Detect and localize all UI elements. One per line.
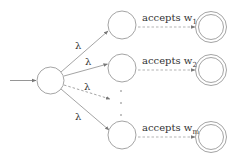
lambda-label-dashed: λ <box>84 81 91 92</box>
accept-state-m-inner <box>199 125 224 150</box>
lambda-label-m: λ <box>75 111 82 122</box>
accept-state-m-outer <box>196 122 227 153</box>
nfa-union-diagram: λ λ λ λ accepts w1 accepts w2 accepts wm <box>0 0 243 165</box>
start-state <box>37 67 64 94</box>
ellipsis-dot <box>120 114 122 116</box>
machine-start-state-2 <box>108 54 136 82</box>
accepts-label-1: accepts w1 <box>142 12 197 26</box>
accepts-label-2: accepts w2 <box>142 55 197 69</box>
accept-state-1-outer <box>196 12 227 43</box>
accepts-label-m: accepts wm <box>142 122 199 136</box>
ellipsis-dot <box>120 90 122 92</box>
machine-start-state-m <box>108 121 136 149</box>
lambda-label-2: λ <box>85 56 92 67</box>
accept-state-2-inner <box>199 58 224 83</box>
accept-state-1-inner <box>199 15 224 40</box>
lambda-edge-m <box>61 89 109 130</box>
ellipsis-dot <box>120 102 122 104</box>
accept-state-2-outer <box>196 55 227 86</box>
machine-start-state-1 <box>108 11 136 39</box>
lambda-label-1: λ <box>75 40 82 51</box>
